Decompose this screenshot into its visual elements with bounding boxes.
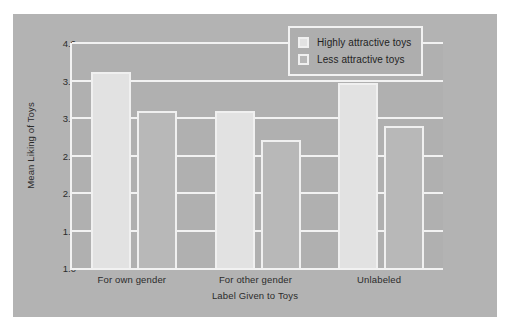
- x-axis-tick-label: For own gender: [98, 274, 167, 285]
- x-axis-title: Label Given to Toys: [13, 290, 497, 301]
- chart-figure: Mean Liking of Toys Label Given to Toys …: [13, 14, 497, 317]
- bar: [215, 111, 255, 268]
- y-axis-title: Mean Liking of Toys: [25, 66, 36, 226]
- chart-legend: Highly attractive toys Less attractive t…: [288, 26, 423, 76]
- legend-label-highly-attractive: Highly attractive toys: [317, 37, 411, 48]
- x-axis-tick-label: For other gender: [219, 274, 292, 285]
- legend-swatch-highly-attractive: [298, 37, 309, 48]
- bar: [137, 111, 177, 269]
- legend-label-less-attractive: Less attractive toys: [317, 54, 405, 65]
- legend-item: Less attractive toys: [298, 51, 411, 68]
- legend-swatch-less-attractive: [298, 54, 309, 65]
- bar: [91, 72, 131, 269]
- bar: [384, 126, 424, 268]
- bar: [338, 83, 378, 268]
- plot-area: [70, 43, 443, 270]
- bar: [261, 140, 301, 268]
- legend-item: Highly attractive toys: [298, 34, 411, 51]
- x-axis-tick-label: Unlabeled: [357, 274, 401, 285]
